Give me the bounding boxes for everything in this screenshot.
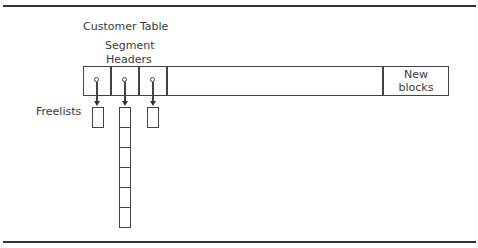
segment-header-divider-3	[166, 66, 168, 96]
segment-header-1-arrow-icon	[94, 101, 100, 106]
freelist-1-block	[92, 107, 104, 128]
freelist-2-block-divider	[120, 207, 130, 209]
freelist-2-block-divider	[120, 147, 130, 149]
segment-header-3-arrow-icon	[150, 101, 156, 106]
freelist-2-block-divider	[120, 127, 130, 129]
freelist-2-block-divider	[120, 167, 130, 169]
segment-headers-label-line1: Segment	[105, 39, 155, 52]
segment-header-3-pointer-line	[152, 82, 154, 102]
new-blocks-label-line1: New	[383, 68, 449, 81]
segment-header-2-arrow-icon	[122, 101, 128, 106]
freelist-3-block	[147, 107, 159, 128]
segment-header-1-pointer-line	[96, 82, 98, 102]
freelist-2-block-divider	[120, 187, 130, 189]
bottom-rule	[3, 241, 476, 243]
segment-header-2-pointer-line	[124, 82, 126, 102]
freelists-label: Freelists	[36, 105, 81, 118]
segment-header-divider-1	[110, 66, 112, 96]
top-rule	[3, 5, 476, 7]
freelist-2-column	[119, 107, 131, 228]
segment-headers-label-line2: Headers	[106, 53, 152, 66]
customer-table-title: Customer Table	[83, 20, 168, 33]
new-blocks-label-line2: blocks	[383, 81, 449, 94]
segment-header-divider-2	[138, 66, 140, 96]
